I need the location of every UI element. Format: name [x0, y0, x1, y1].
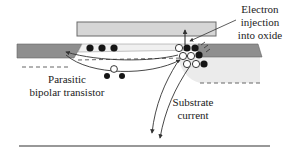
substrate-hole — [111, 66, 118, 73]
substrate-current-label-1: Substrate — [173, 96, 214, 108]
parasitic-label-1: Parasitic — [48, 73, 86, 85]
source-region — [17, 44, 82, 58]
drain-depletion-region — [178, 56, 260, 83]
channel-electrons — [86, 44, 117, 51]
substrate-electron-1 — [104, 73, 110, 79]
substrate-current-label-2: current — [177, 109, 208, 121]
gate-electrode — [77, 22, 216, 36]
parasitic-label-2: bipolar transistor — [30, 86, 105, 98]
electron-injection-label-2: injection — [241, 16, 280, 28]
substrate-electron-2 — [119, 73, 125, 79]
electron-injection-label-3: into oxide — [238, 29, 282, 41]
mosfet-hot-carrier-diagram: Electron injection into oxide Parasitic … — [0, 0, 294, 155]
electron-injection-label-1: Electron — [241, 3, 279, 15]
